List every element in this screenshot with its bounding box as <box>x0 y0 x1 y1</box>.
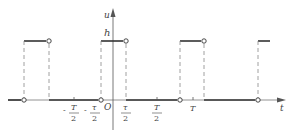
t-axis-label: t <box>280 103 284 113</box>
svg-text:2: 2 <box>123 114 128 123</box>
pulse-train-diagram: u h O t - T 2 - τ 2 τ 2 T 2 T <box>0 0 300 139</box>
amplitude-label: h <box>104 27 110 38</box>
open-circle-icon <box>99 98 103 102</box>
svg-text:τ: τ <box>123 103 128 112</box>
pulse-edges-dashed <box>24 41 258 100</box>
svg-text:2: 2 <box>71 114 76 123</box>
open-circle-icon <box>47 39 51 43</box>
svg-text:2: 2 <box>154 114 159 123</box>
origin-label: O <box>104 102 112 112</box>
open-circle-icon <box>202 39 206 43</box>
u-axis-arrow-icon <box>111 8 116 17</box>
open-circle-icon <box>22 98 26 102</box>
tick-label-neg-tau-half: - τ 2 <box>84 103 100 123</box>
svg-text:T: T <box>154 103 160 112</box>
t-axis-arrow-icon <box>277 98 286 103</box>
tick-label-tau-half: τ 2 <box>121 103 131 123</box>
u-axis-label: u <box>104 10 110 20</box>
svg-text:-: - <box>63 106 66 115</box>
open-circle-icon <box>178 98 182 102</box>
svg-text:2: 2 <box>92 114 97 123</box>
tick-label-T-half: T 2 <box>152 103 162 123</box>
tick-label-neg-T-half: - T 2 <box>63 103 79 123</box>
open-circle-icon <box>124 39 128 43</box>
open-endpoints <box>22 39 260 102</box>
tick-label-T: T <box>190 104 196 113</box>
svg-text:τ: τ <box>92 103 97 112</box>
svg-text:T: T <box>71 103 77 112</box>
open-circle-icon <box>256 98 260 102</box>
svg-text:-: - <box>84 106 87 115</box>
